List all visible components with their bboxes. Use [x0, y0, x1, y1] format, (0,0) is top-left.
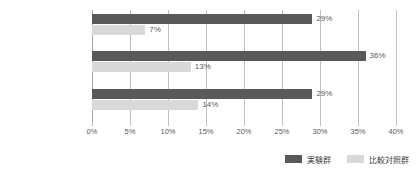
legend: 実験群 比較対照群	[0, 152, 409, 166]
legend-label: 実験群	[307, 154, 331, 165]
bar-chart: 29% 7% 36% 13% 29% 14% 月給2,000ドル以上 持ち家 生…	[0, 0, 417, 174]
tick-mark	[168, 122, 169, 126]
tick-mark	[358, 122, 359, 126]
plot-area: 29% 7% 36% 13% 29% 14% 月給2,000ドル以上 持ち家 生…	[92, 10, 396, 122]
bar-experimental	[92, 51, 366, 61]
gridline	[396, 10, 397, 122]
tick-label: 25%	[274, 127, 289, 136]
bar-experimental	[92, 89, 312, 99]
tick-mark	[396, 122, 397, 126]
tick-mark	[244, 122, 245, 126]
tick-label: 15%	[198, 127, 213, 136]
category-group: 36% 13%	[92, 47, 396, 84]
legend-label: 比較対照群	[369, 154, 409, 165]
tick-label: 20%	[236, 127, 251, 136]
tick-mark	[130, 122, 131, 126]
legend-item-control: 比較対照群	[347, 154, 409, 165]
x-axis: 0%5%10%15%20%25%30%35%40%	[92, 122, 396, 142]
tick-label: 5%	[125, 127, 136, 136]
bar-control	[92, 100, 198, 110]
category-group: 29% 7%	[92, 10, 396, 47]
tick-label: 10%	[160, 127, 175, 136]
bar-value-label: 36%	[370, 51, 386, 61]
bar-control	[92, 62, 191, 72]
category-group: 29% 14%	[92, 85, 396, 122]
legend-item-experimental: 実験群	[285, 154, 331, 165]
bar-value-label: 13%	[195, 62, 211, 72]
bar-value-label: 14%	[202, 100, 218, 110]
bar-experimental	[92, 14, 312, 24]
tick-label: 30%	[312, 127, 327, 136]
legend-swatch-icon	[347, 155, 364, 163]
tick-mark	[320, 122, 321, 126]
tick-mark	[282, 122, 283, 126]
legend-swatch-icon	[285, 155, 302, 163]
tick-mark	[206, 122, 207, 126]
tick-mark	[92, 122, 93, 126]
tick-label: 0%	[87, 127, 98, 136]
bar-value-label: 29%	[316, 14, 332, 24]
bar-control	[92, 25, 145, 35]
tick-label: 35%	[350, 127, 365, 136]
tick-label: 40%	[388, 127, 403, 136]
bar-value-label: 29%	[316, 89, 332, 99]
bar-value-label: 7%	[149, 25, 161, 35]
